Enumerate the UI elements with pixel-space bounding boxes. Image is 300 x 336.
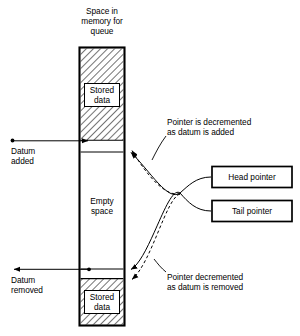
pointer-decremented-added-label: Pointer is decremented as datum is added	[167, 117, 289, 137]
datum-added-arrow	[11, 139, 88, 143]
datum-added-label: Datum added	[11, 146, 71, 166]
empty-space-label: Empty space	[82, 194, 122, 218]
pointer-removed-leader	[154, 259, 166, 272]
pointer-added-leader	[152, 136, 166, 160]
stored-data-label-top: Stored data	[84, 83, 120, 107]
pointer-decremented-removed-curve	[132, 194, 180, 279]
stored-data-label-bottom: Stored data	[84, 290, 120, 314]
queue-memory-diagram: Space in memory for queue Stored data Em…	[0, 0, 300, 336]
pointer-decremented-added-curve	[132, 151, 180, 195]
head-pointer-label: Head pointer	[212, 166, 292, 188]
diagram-title: Space in memory for queue	[62, 6, 142, 37]
head-pointer-curve	[131, 153, 211, 195]
datum-removed-label: Datum removed	[11, 275, 77, 295]
tail-pointer-label: Tail pointer	[212, 200, 292, 222]
pointer-decremented-removed-label: Pointer decremented as datum is removed	[167, 272, 289, 292]
